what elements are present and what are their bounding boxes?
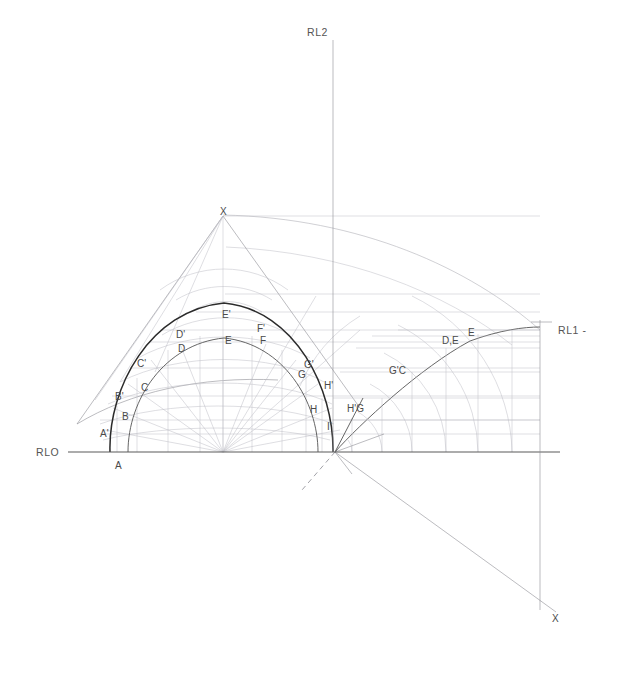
label-dev-HG: H'G bbox=[347, 403, 364, 414]
guide-arc-h bbox=[176, 287, 272, 301]
label-RL2: RL2 bbox=[307, 26, 328, 38]
label-A-prime: A' bbox=[100, 428, 109, 439]
radial-1 bbox=[105, 430, 223, 452]
pivot-dashed-ray bbox=[302, 452, 335, 490]
geometry-drawing-svg: RLO RL2 RL1 - X X A A' B' C' D' E' F' G'… bbox=[0, 0, 626, 673]
label-D: D bbox=[178, 343, 185, 354]
label-dev-GC: G'C bbox=[389, 365, 406, 376]
fan-line-1 bbox=[95, 216, 223, 400]
label-B-prime: B' bbox=[115, 391, 124, 402]
developed-curve bbox=[335, 327, 540, 452]
fan-line-2 bbox=[120, 216, 223, 382]
cone-base-arc bbox=[77, 379, 278, 424]
pivot-to-bottom-apex bbox=[335, 452, 556, 612]
label-D-prime: D' bbox=[176, 329, 185, 340]
radial-long-1 bbox=[223, 330, 360, 452]
label-B: B bbox=[122, 411, 129, 422]
labels-layer: RLO RL2 RL1 - X X A A' B' C' D' E' F' G'… bbox=[36, 26, 587, 624]
label-C: C bbox=[141, 382, 148, 393]
label-G: G bbox=[298, 369, 306, 380]
label-RLO: RLO bbox=[36, 446, 59, 458]
dev-arc-3 bbox=[370, 384, 412, 452]
label-dev-DE: D,E bbox=[442, 335, 459, 346]
label-point-A: A bbox=[115, 460, 122, 471]
dev-arc-6 bbox=[412, 296, 512, 452]
technical-drawing-canvas: RLO RL2 RL1 - X X A A' B' C' D' E' F' G'… bbox=[0, 0, 626, 673]
dev-arc-2 bbox=[358, 412, 382, 452]
radial-11 bbox=[223, 430, 340, 452]
label-F-prime: F' bbox=[257, 323, 265, 334]
label-I-prime: I' bbox=[327, 421, 332, 432]
label-apex-bottom-right: X bbox=[552, 613, 559, 624]
major-sweep-arc bbox=[223, 215, 540, 330]
radial-3 bbox=[128, 384, 223, 452]
label-E-prime: E' bbox=[222, 309, 231, 320]
label-H: H bbox=[310, 404, 317, 415]
label-dev-E: E bbox=[468, 327, 475, 338]
label-F: F bbox=[260, 335, 266, 346]
reference-lines-layer bbox=[68, 40, 560, 610]
construction-faint-layer bbox=[100, 215, 540, 434]
pivot-short-ray bbox=[335, 452, 352, 474]
dev-arc-5 bbox=[398, 325, 478, 452]
fan-line-3 bbox=[155, 216, 223, 372]
guide-arc-family bbox=[100, 269, 334, 440]
label-E: E bbox=[225, 335, 232, 346]
pivot-mid-ray bbox=[335, 434, 384, 452]
label-H-prime: H' bbox=[324, 380, 333, 391]
label-C-prime: C' bbox=[137, 358, 146, 369]
guide-arc-e bbox=[138, 337, 310, 358]
label-RL1: RL1 - bbox=[558, 324, 587, 336]
label-apex-top: X bbox=[220, 206, 227, 217]
ordinate-lines-left bbox=[117, 216, 322, 452]
pivot-lines-layer bbox=[302, 398, 556, 612]
